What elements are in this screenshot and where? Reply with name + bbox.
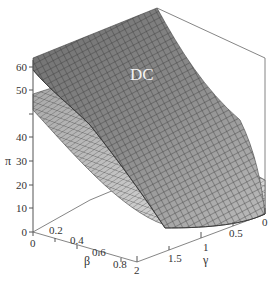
- gamma-tick-1.5: 1.5: [168, 252, 182, 264]
- z-tick: 60: [16, 61, 28, 73]
- z-axis-label: π: [5, 154, 11, 168]
- beta-tick-0.4: 0.4: [70, 234, 84, 246]
- gamma-tick-0: 0: [262, 216, 268, 228]
- z-tick: 50: [16, 84, 28, 96]
- beta-tick-0.2: 0.2: [49, 224, 63, 236]
- surface-annotation: DC: [130, 65, 154, 84]
- z-axis: 0 20 40 10 30 50 60 π: [5, 60, 33, 238]
- beta-tick-0.6: 0.6: [92, 246, 106, 258]
- gamma-tick-0.5: 0.5: [229, 227, 243, 239]
- surface-plot: DC 0 20 40 10 30 50 60 π 0: [0, 0, 273, 282]
- z-tick: 20: [16, 179, 28, 191]
- gamma-tick-1: 1: [203, 241, 209, 253]
- beta-tick-0.8: 0.8: [113, 258, 127, 270]
- beta-axis: 0 0.2 0.2 0.4 0.6 0.8 β: [30, 224, 127, 270]
- gamma-axis-label: γ: [202, 253, 209, 267]
- z-tick: 10: [16, 202, 28, 214]
- beta-axis-label: β: [84, 254, 90, 268]
- beta-tick: 0: [30, 237, 36, 249]
- z-tick: 30: [16, 155, 28, 167]
- z-tick: 40: [16, 131, 28, 143]
- z-tick: 0: [22, 226, 28, 238]
- gamma-tick-2: 2: [134, 264, 140, 276]
